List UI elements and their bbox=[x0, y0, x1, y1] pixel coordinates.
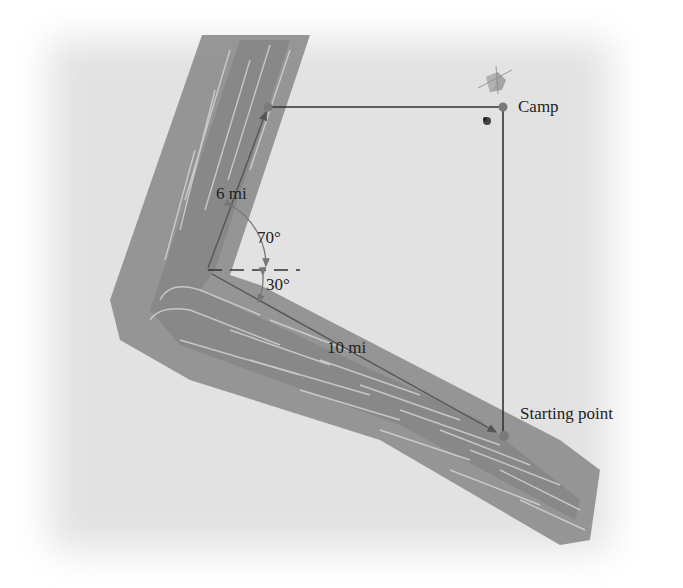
river-navigation-diagram: Camp Starting point 6 mi 10 mi 70° 30° bbox=[0, 0, 683, 588]
angle-30-label: 30° bbox=[266, 275, 290, 295]
leg1-distance-label: 6 mi bbox=[216, 184, 247, 204]
start-dot bbox=[499, 431, 509, 441]
camp-label: Camp bbox=[518, 97, 559, 117]
camp-dot bbox=[499, 103, 508, 112]
angle-70-label: 70° bbox=[257, 228, 281, 248]
turn-point-dot bbox=[264, 103, 273, 112]
campfire-icon bbox=[483, 117, 491, 125]
starting-point-label: Starting point bbox=[520, 404, 613, 424]
leg2-distance-label: 10 mi bbox=[327, 338, 366, 358]
diagram-canvas bbox=[0, 0, 683, 588]
